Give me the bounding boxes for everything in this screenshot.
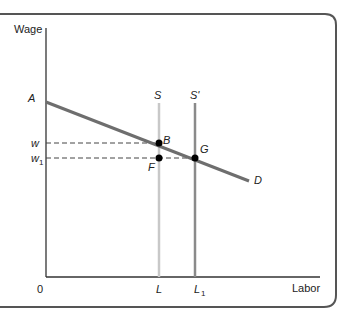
frame-border	[0, 14, 336, 307]
y-axis-label: Wage	[14, 23, 42, 35]
origin-label: 0	[37, 283, 43, 295]
label-w1-subscript: 1	[39, 158, 44, 167]
label-d: D	[254, 174, 262, 186]
label-f: F	[148, 161, 156, 173]
point-b	[156, 140, 163, 147]
label-l1-subscript: 1	[201, 289, 206, 298]
label-a: A	[27, 92, 35, 104]
label-w: w	[31, 137, 40, 149]
label-l: L	[156, 283, 162, 295]
label-g: G	[200, 143, 209, 155]
point-f	[156, 155, 163, 162]
label-s: S	[154, 89, 162, 101]
labor-market-diagram: Wage Labor 0 A w w 1 L L 1 S S' D B G F	[0, 0, 348, 311]
point-g	[192, 155, 199, 162]
label-l1: L	[194, 283, 200, 295]
x-axis-label: Labor	[292, 282, 320, 294]
label-s-prime: S'	[190, 89, 200, 101]
label-b: B	[163, 134, 170, 146]
